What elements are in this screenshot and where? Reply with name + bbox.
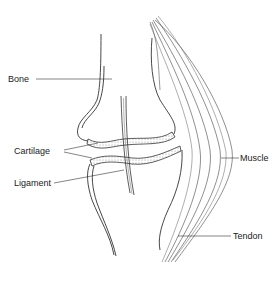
label-tendon: Tendon [233,231,263,241]
label-cartilage: Cartilage [14,146,50,156]
lower-cartilage [90,146,181,166]
label-muscle: Muscle [240,153,269,163]
leader-lines [36,79,239,236]
lower-bone [88,150,183,256]
label-ligament: Ligament [14,178,51,188]
upper-cartilage [87,132,175,148]
label-bone: Bone [8,74,29,84]
